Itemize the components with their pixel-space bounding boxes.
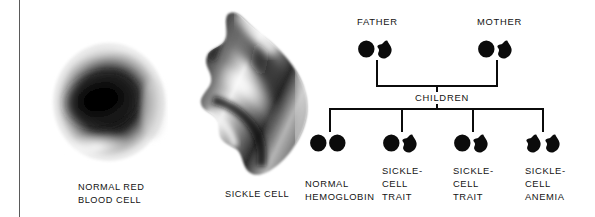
father-genotype-symbols [358,40,392,59]
child-3-label: SICKLE- CELL TRAIT [453,164,494,204]
child-3-drop-line [472,108,474,132]
normal-red-blood-cell-image [50,39,168,165]
sibship-line [329,108,544,110]
father-drop-line [376,60,378,86]
sickle-symbol-mutant-allele [545,134,560,153]
child-2-genotype-symbols [383,134,417,153]
children-label: CHILDREN [415,92,469,103]
child-2-label: SICKLE- CELL TRAIT [382,164,423,204]
circle-symbol-normal-allele [454,134,471,152]
child-4-genotype-symbols [526,134,560,153]
inheritance-pedigree-chart: FATHER MOTHER CHILDRE [305,0,595,217]
circle-symbol-normal-allele [329,134,346,152]
circle-symbol-normal-allele [478,40,495,58]
mother-label: MOTHER [477,16,522,27]
circle-symbol-normal-allele [383,134,400,152]
mother-genotype-symbols [478,40,512,59]
sickle-symbol-mutant-allele [473,134,488,153]
child-4-drop-line [542,108,544,132]
sickle-cell-caption: SICKLE CELL [225,188,289,201]
sickle-symbol-mutant-allele [402,134,417,153]
child-1-genotype-symbols [310,134,346,152]
child-3-genotype-symbols [454,134,488,153]
mother-drop-line [496,60,498,86]
sickle-cell-figure: NORMAL RED BLOOD CELL [0,0,595,217]
child-2-drop-line [401,108,403,132]
child-1-drop-line [329,108,331,132]
cell-micrographs-panel: NORMAL RED BLOOD CELL [20,0,305,217]
circle-symbol-normal-allele [310,134,327,152]
sickle-symbol-mutant-allele [377,40,392,59]
sickle-symbol-mutant-allele [497,40,512,59]
normal-red-blood-cell-caption: NORMAL RED BLOOD CELL [78,181,144,206]
child-1-label: NORMAL HEMOGLOBIN [305,177,375,203]
sickle-symbol-mutant-allele [526,134,541,153]
child-4-label: SICKLE- CELL ANEMIA [525,164,566,204]
sickle-cell-image [187,8,315,180]
circle-symbol-normal-allele [358,40,375,58]
father-label: FATHER [357,16,398,27]
